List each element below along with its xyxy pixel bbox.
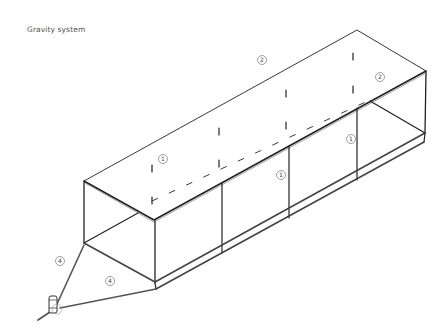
label-1a: 1: [159, 155, 168, 164]
roof-back-edge: [84, 30, 426, 181]
back-bottom-left: [84, 213, 138, 243]
svg-text:1: 1: [161, 155, 165, 162]
back-bottom-right: [370, 101, 425, 133]
hidden-gutter-line: [152, 99, 372, 201]
svg-text:4: 4: [58, 257, 62, 264]
drain-pipe-1: [57, 245, 84, 304]
label-2a: 2: [258, 56, 267, 65]
svg-text:2: 2: [378, 73, 382, 80]
post-right: [425, 72, 426, 133]
svg-text:1: 1: [279, 171, 283, 178]
drain-pipe-2: [60, 289, 156, 308]
label-1b: 1: [277, 171, 286, 180]
label-1c: 1: [347, 135, 356, 144]
gravity-system-drawing: 1 1 1 2 2 4 4: [0, 0, 445, 334]
svg-text:1: 1: [349, 135, 353, 142]
label-2b: 2: [376, 73, 385, 82]
bottom-beam: [84, 133, 425, 282]
svg-text:2: 2: [260, 56, 264, 63]
roof-front-edge: [84, 71, 426, 220]
lower-pipe: [156, 142, 424, 289]
label-4b: 4: [106, 277, 115, 286]
svg-text:4: 4: [108, 277, 112, 284]
label-4a: 4: [56, 257, 65, 266]
outlet-pipe: [38, 312, 50, 320]
